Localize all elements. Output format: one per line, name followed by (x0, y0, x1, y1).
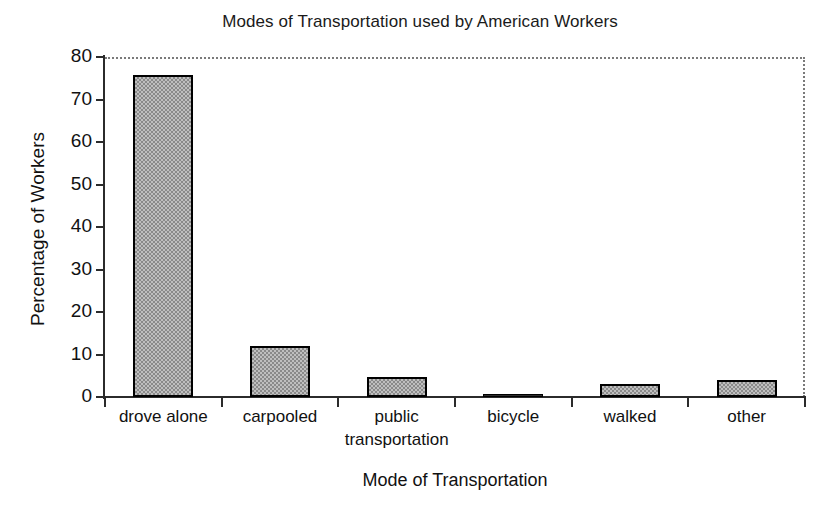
y-tick (96, 354, 105, 356)
y-tick-label: 80 (40, 46, 92, 65)
y-tick (96, 269, 105, 271)
x-category-label-line: transportation (338, 429, 455, 452)
bar-other (717, 380, 777, 397)
x-axis-title: Mode of Transportation (105, 470, 805, 491)
bar-public-transportation (367, 377, 427, 397)
y-tick-label: 30 (40, 259, 92, 278)
x-category-label: walked (572, 406, 689, 429)
y-tick-label: 50 (40, 174, 92, 193)
x-category-label-line: drove alone (105, 406, 222, 429)
y-tick-label: 60 (40, 131, 92, 150)
bar-bicycle (483, 394, 543, 397)
x-category-label: publictransportation (338, 406, 455, 452)
x-category-label-line: bicycle (455, 406, 572, 429)
y-tick (96, 184, 105, 186)
y-tick-label: 70 (40, 89, 92, 108)
bar-drove-alone (133, 75, 193, 397)
y-tick-label: 20 (40, 301, 92, 320)
plot-area (105, 57, 805, 397)
x-category-label-line: walked (572, 406, 689, 429)
y-tick-label: 40 (40, 216, 92, 235)
bar-walked (600, 384, 660, 397)
y-tick-label: 0 (40, 386, 92, 405)
y-tick (96, 226, 105, 228)
y-tick-label: 10 (40, 344, 92, 363)
x-category-label: bicycle (455, 406, 572, 429)
y-tick (96, 141, 105, 143)
chart-figure: Modes of Transportation used by American… (0, 0, 840, 515)
y-tick (96, 99, 105, 101)
x-category-label-line: public (338, 406, 455, 429)
y-tick (96, 311, 105, 313)
x-category-label-line: other (688, 406, 805, 429)
bar-carpooled (250, 346, 310, 397)
y-tick (96, 56, 105, 58)
chart-title: Modes of Transportation used by American… (0, 12, 840, 32)
x-category-label: carpooled (222, 406, 339, 429)
x-category-label: other (688, 406, 805, 429)
x-category-label-line: carpooled (222, 406, 339, 429)
x-category-label: drove alone (105, 406, 222, 429)
